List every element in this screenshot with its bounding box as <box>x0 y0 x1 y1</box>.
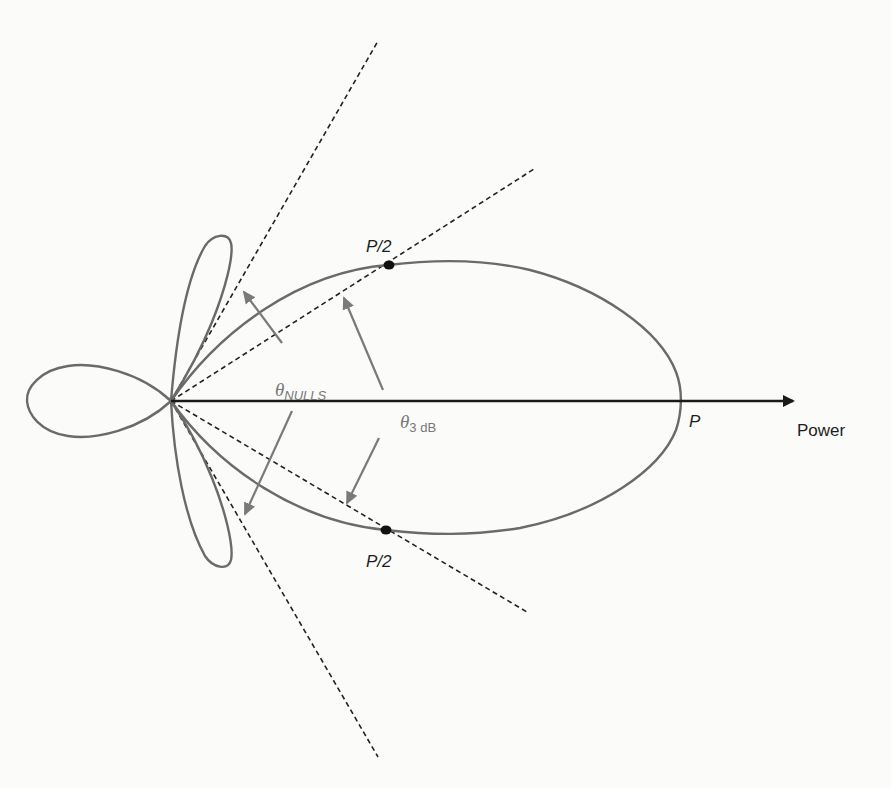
theta-nulls-label: θNULLS <box>275 379 327 403</box>
radiation-pattern-diagram: P/2 P/2 P Power θNULLS θ3 dB <box>0 0 891 788</box>
lower-3db-line <box>171 401 527 612</box>
lower-side-lobe <box>171 401 232 567</box>
peak-power-label: P <box>689 412 701 431</box>
3db-upper-arrow <box>344 298 383 390</box>
lower-half-power-label: P/2 <box>366 552 392 571</box>
3db-lower-arrow <box>347 438 379 503</box>
axis-power-label: Power <box>797 421 846 440</box>
main-lobe <box>171 261 681 534</box>
upper-half-power-label: P/2 <box>366 237 392 256</box>
theta-3db-label: θ3 dB <box>400 411 436 435</box>
upper-half-power-dot <box>384 261 395 270</box>
back-lobe <box>27 365 171 437</box>
nulls-upper-arrow <box>244 292 282 343</box>
lower-half-power-dot <box>381 526 392 535</box>
upper-side-lobe <box>171 236 232 401</box>
